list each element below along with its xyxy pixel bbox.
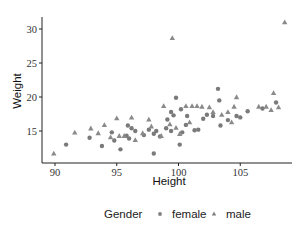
point-male bbox=[146, 117, 151, 122]
x-tick-label: 90 bbox=[50, 167, 61, 178]
point-female bbox=[152, 151, 156, 155]
point-female bbox=[184, 123, 188, 127]
point-female bbox=[211, 114, 215, 118]
point-male bbox=[170, 35, 175, 40]
point-female bbox=[179, 107, 183, 111]
point-male bbox=[72, 130, 77, 135]
point-female bbox=[217, 98, 221, 102]
point-female bbox=[110, 130, 114, 134]
point-female bbox=[129, 126, 133, 130]
point-female bbox=[64, 142, 68, 146]
point-female bbox=[152, 132, 156, 136]
y-tick-label: 15 bbox=[27, 126, 38, 137]
x-tick-label: 105 bbox=[232, 167, 248, 178]
point-female bbox=[165, 117, 169, 121]
point-male bbox=[225, 109, 230, 114]
point-male bbox=[114, 115, 119, 120]
y-axis-title: Weight bbox=[11, 72, 23, 108]
point-male bbox=[140, 130, 145, 135]
point-male bbox=[117, 133, 122, 138]
point-female bbox=[234, 114, 238, 118]
point-male bbox=[263, 104, 268, 109]
legend: Gender female male bbox=[104, 208, 251, 220]
point-male bbox=[194, 103, 199, 108]
legend-male-triangle-icon bbox=[212, 212, 216, 216]
point-male bbox=[199, 104, 204, 109]
legend-title: Gender bbox=[104, 208, 143, 220]
x-axis-title: Height bbox=[152, 175, 186, 187]
point-female bbox=[133, 129, 137, 133]
legend-female-circle-icon bbox=[158, 212, 162, 216]
point-female bbox=[126, 123, 130, 127]
point-female bbox=[100, 144, 104, 148]
point-male bbox=[271, 90, 276, 95]
legend-label-female: female bbox=[172, 208, 207, 220]
point-male bbox=[88, 126, 93, 131]
point-male bbox=[51, 151, 56, 156]
y-tick-label: 25 bbox=[27, 58, 38, 69]
point-female bbox=[118, 147, 122, 151]
point-female bbox=[226, 118, 230, 122]
point-male bbox=[234, 94, 239, 99]
point-female bbox=[201, 117, 205, 121]
point-male bbox=[96, 130, 101, 135]
point-female bbox=[169, 129, 173, 133]
point-male bbox=[149, 124, 154, 129]
point-male bbox=[210, 109, 215, 114]
scatter-chart: 909510010515202530 Height Weight Gender … bbox=[0, 0, 307, 228]
point-female bbox=[245, 109, 249, 113]
point-male bbox=[207, 105, 212, 110]
point-female bbox=[192, 128, 196, 132]
point-male bbox=[189, 103, 194, 108]
point-female bbox=[274, 100, 278, 104]
point-male bbox=[268, 107, 273, 112]
point-female bbox=[164, 126, 168, 130]
point-female bbox=[216, 87, 220, 91]
x-tick-label: 95 bbox=[112, 167, 123, 178]
point-male bbox=[219, 112, 224, 117]
point-male bbox=[108, 134, 113, 139]
point-male bbox=[129, 115, 134, 120]
data-points bbox=[51, 20, 287, 156]
point-male bbox=[276, 105, 281, 110]
point-female bbox=[196, 127, 200, 131]
legend-label-male: male bbox=[226, 208, 251, 220]
point-male bbox=[282, 20, 287, 25]
point-female bbox=[169, 110, 173, 114]
point-female bbox=[174, 95, 178, 99]
point-female bbox=[87, 136, 91, 140]
axes: 909510010515202530 bbox=[27, 17, 293, 178]
point-male bbox=[231, 104, 236, 109]
point-female bbox=[178, 142, 182, 146]
y-tick-label: 20 bbox=[27, 92, 38, 103]
point-female bbox=[185, 114, 189, 118]
point-male bbox=[133, 137, 138, 142]
y-tick-label: 30 bbox=[27, 24, 38, 35]
point-male bbox=[183, 103, 188, 108]
point-male bbox=[167, 122, 172, 127]
point-male bbox=[187, 119, 192, 124]
point-male bbox=[173, 125, 178, 130]
point-male bbox=[102, 122, 107, 127]
point-female bbox=[127, 136, 131, 140]
point-female bbox=[205, 112, 209, 116]
point-female bbox=[218, 123, 222, 127]
point-male bbox=[256, 104, 261, 109]
point-male bbox=[161, 103, 166, 108]
